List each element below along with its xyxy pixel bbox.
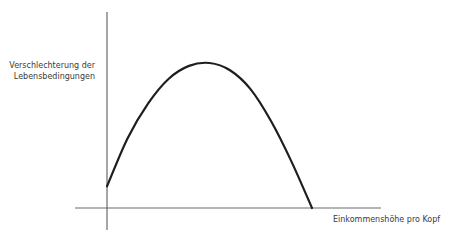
series-line-0 bbox=[107, 63, 312, 208]
y-axis-label-line-1: Verschlechterung der bbox=[9, 60, 95, 71]
y-axis-label-line-2: Lebensbedingungen bbox=[9, 71, 95, 82]
x-axis-label: Einkommenshöhe pro Kopf bbox=[333, 214, 440, 225]
y-axis-label: Verschlechterung der Lebensbedingungen bbox=[9, 60, 95, 82]
series-layer bbox=[107, 63, 312, 208]
diagram-canvas bbox=[0, 0, 450, 240]
